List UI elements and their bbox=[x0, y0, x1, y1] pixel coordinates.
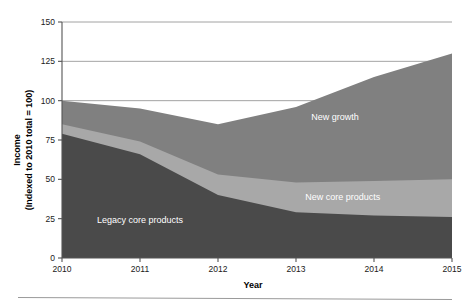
y-axis-title-line1: Income bbox=[12, 134, 22, 166]
y-tick-label-100: 100 bbox=[41, 96, 55, 106]
x-tick-label-2012: 2012 bbox=[209, 264, 228, 274]
y-axis-title-line2: (Indexed to 2010 total = 100) bbox=[24, 90, 34, 210]
x-tick-label-2013: 2013 bbox=[287, 264, 306, 274]
x-tick-label-2010: 2010 bbox=[53, 264, 72, 274]
y-tick-label-25: 25 bbox=[46, 214, 56, 224]
y-tick-label-125: 125 bbox=[41, 56, 55, 66]
x-tick-label-2014: 2014 bbox=[365, 264, 384, 274]
y-tick-label-50: 50 bbox=[46, 174, 56, 184]
series-label-legacy: Legacy core products bbox=[97, 215, 184, 225]
chart-figure: 0255075100125150 20102011201220132014201… bbox=[0, 0, 467, 305]
x-axis-title: Year bbox=[243, 280, 263, 290]
series-label-new-growth: New growth bbox=[311, 112, 359, 122]
y-tick-label-75: 75 bbox=[46, 135, 56, 145]
stacked-area-chart: 0255075100125150 20102011201220132014201… bbox=[0, 0, 467, 305]
x-tick-label-2011: 2011 bbox=[131, 264, 150, 274]
y-tick-label-150: 150 bbox=[41, 17, 55, 27]
y-tick-label-0: 0 bbox=[50, 253, 55, 263]
series-label-new-core: New core products bbox=[305, 192, 381, 202]
x-tick-label-2015: 2015 bbox=[443, 264, 462, 274]
